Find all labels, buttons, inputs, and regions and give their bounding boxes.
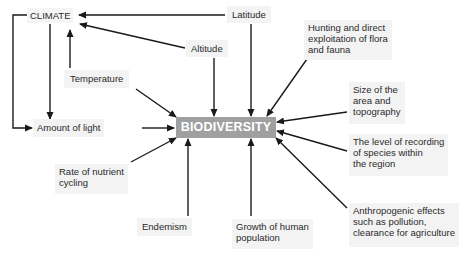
node-human-population: Growth of human population	[232, 219, 313, 249]
node-altitude: Altitude	[186, 40, 228, 57]
node-climate: CLIMATE	[27, 8, 73, 23]
node-temperature: Temperature	[64, 70, 129, 88]
node-biodiversity-center: BIODIVERSITY	[176, 117, 276, 138]
node-recording-level: The level of recording of species within…	[349, 134, 448, 176]
node-area-size-topography: Size of the area and topography	[349, 82, 405, 124]
node-anthropogenic-effects: Anthropogenic effects such as pollution,…	[349, 203, 459, 247]
node-nutrient-cycling: Rate of nutrient cycling	[55, 164, 128, 194]
node-latitude: Latitude	[227, 6, 271, 23]
biodiversity-diagram: CLIMATE Latitude Altitude Temperature Am…	[0, 0, 465, 255]
node-hunting-exploitation: Hunting and direct exploitation of flora…	[304, 20, 392, 60]
node-amount-of-light: Amount of light	[33, 119, 104, 137]
node-endemism: Endemism	[137, 218, 192, 236]
